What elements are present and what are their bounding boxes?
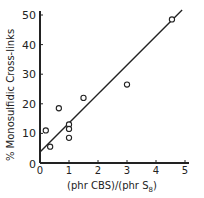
data-point (66, 126, 71, 131)
data-point (169, 17, 174, 22)
ticks: 01234501020304050 (22, 9, 188, 176)
data-point (48, 144, 53, 149)
axes (40, 11, 189, 163)
x-tick-label: 4 (153, 165, 159, 176)
x-tick-label: 5 (182, 165, 188, 176)
y-tick-label: 30 (22, 68, 36, 81)
data-point (124, 82, 129, 87)
x-tick-label: 2 (95, 165, 101, 176)
data-point (56, 106, 61, 111)
x-tick-label: 0 (37, 165, 43, 176)
scatter-chart: 01234501020304050 % Monosulfidic Cross-l… (0, 0, 204, 198)
fit-line (40, 10, 182, 152)
y-tick-label: 20 (22, 98, 36, 111)
data-point (43, 128, 48, 133)
y-tick-label: 50 (22, 9, 36, 22)
x-tick-label: 1 (66, 165, 72, 176)
y-tick-label: 40 (22, 39, 36, 52)
y-tick-label: 0 (29, 158, 36, 171)
y-tick-label: 10 (22, 127, 36, 140)
regression-line (40, 10, 182, 152)
data-point (81, 95, 86, 100)
data-point (66, 135, 71, 140)
x-axis-label: (phr CBS)/(phr S8) (67, 180, 157, 194)
y-axis-label: % Monosulfidic Cross-links (5, 29, 16, 161)
x-tick-label: 3 (124, 165, 130, 176)
